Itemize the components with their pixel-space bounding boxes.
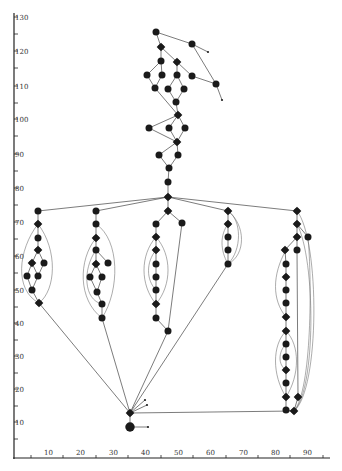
diamond-node-core — [153, 234, 159, 240]
loop-curve — [276, 250, 287, 317]
loop-curve — [156, 237, 168, 304]
circle-node-icon — [283, 300, 290, 307]
y-axis-ticks: 130120110100908070605040302010 — [14, 14, 28, 440]
arrow-dot-icon — [207, 51, 209, 53]
loop-curve — [222, 224, 228, 264]
graph-edge — [130, 264, 228, 413]
arrow-dot-icon — [147, 426, 149, 428]
diamond-node-core — [35, 247, 41, 253]
graph-canvas: 130120110100908070605040302010 102030405… — [0, 0, 342, 471]
circle-node-icon — [153, 261, 160, 268]
circle-node-icon — [153, 274, 160, 281]
y-tick-label: 130 — [15, 14, 28, 22]
graph-edge — [168, 197, 297, 211]
circle-node-icon — [99, 315, 106, 322]
circle-node-icon — [225, 261, 232, 268]
y-tick-label: 30 — [15, 353, 24, 361]
diamond-node-core — [294, 234, 300, 240]
diamond-node-core — [175, 112, 181, 118]
graph-edge — [168, 223, 182, 331]
diamond-node-core — [283, 274, 289, 280]
circle-node-icon — [165, 179, 172, 186]
diamond-node-core — [283, 367, 289, 373]
x-tick-label: 90 — [303, 449, 312, 457]
circle-node-icon — [213, 81, 220, 88]
circle-node-icon — [283, 354, 290, 361]
diamond-node-core — [282, 247, 288, 253]
y-tick-label: 20 — [15, 386, 24, 394]
circle-node-icon — [283, 261, 290, 268]
y-tick-label: 50 — [15, 287, 24, 295]
circle-node-icon — [153, 315, 160, 322]
diamond-node-core — [174, 139, 180, 145]
graph-edge — [102, 318, 130, 413]
diamond-node-core — [295, 394, 301, 400]
arrow-dot-icon — [144, 399, 146, 401]
circle-node-icon — [35, 273, 42, 280]
graph-edge — [39, 303, 130, 413]
y-tick-label: 40 — [15, 320, 24, 328]
circle-node-icon — [181, 86, 188, 93]
circle-node-icon — [105, 260, 112, 267]
diamond-node-core — [158, 44, 164, 50]
circle-node-icon — [153, 221, 160, 228]
circle-node-icon — [94, 289, 101, 296]
circle-node-icon — [305, 234, 312, 241]
x-tick-label: 30 — [109, 449, 118, 457]
circle-node-icon — [165, 328, 172, 335]
circle-node-icon — [179, 220, 186, 227]
y-tick-label: 70 — [15, 219, 24, 227]
x-tick-label: 80 — [271, 449, 280, 457]
circle-node-icon — [144, 72, 151, 79]
circle-node-icon — [125, 422, 134, 431]
circle-node-icon — [152, 85, 159, 92]
y-tick-label: 110 — [15, 83, 28, 91]
circle-node-icon — [294, 247, 301, 254]
circle-node-icon — [156, 152, 163, 159]
y-tick-label: 120 — [15, 48, 28, 56]
x-tick-label: 50 — [174, 449, 183, 457]
circle-node-icon — [99, 301, 106, 308]
circle-node-icon — [283, 380, 290, 387]
diamond-node-core — [225, 208, 231, 214]
circle-node-icon — [41, 260, 48, 267]
diamond-node-core — [291, 408, 297, 414]
diamond-node-core — [294, 221, 300, 227]
diamond-node-core — [93, 261, 99, 267]
graph-edge — [297, 250, 298, 397]
diamond-node-core — [127, 410, 133, 416]
circle-node-icon — [29, 287, 36, 294]
graph-edge — [130, 331, 168, 413]
circle-node-icon — [146, 125, 153, 132]
diamond-node-core — [283, 314, 289, 320]
circle-node-icon — [166, 125, 173, 132]
x-tick-label: 40 — [141, 449, 150, 457]
circle-node-icon — [93, 247, 100, 254]
diamond-node-core — [165, 208, 171, 214]
diamond-node-core — [35, 221, 41, 227]
diamond-node-core — [174, 59, 180, 65]
circle-node-icon — [159, 72, 166, 79]
arrow-dot-icon — [221, 99, 223, 101]
circle-node-icon — [175, 152, 182, 159]
graph-edge — [168, 197, 228, 211]
circle-node-icon — [189, 41, 196, 48]
graph-edge — [156, 32, 192, 44]
diamond-node-core — [29, 260, 35, 266]
circle-node-icon — [35, 235, 42, 242]
arrow-dot-icon — [146, 404, 148, 406]
circle-node-icon — [283, 341, 290, 348]
graph-edge — [38, 197, 168, 211]
diamond-node-core — [294, 208, 300, 214]
y-tick-label: 80 — [15, 185, 24, 193]
x-tick-label: 60 — [206, 449, 215, 457]
y-tick-label: 90 — [15, 151, 24, 159]
circle-node-icon — [24, 273, 31, 280]
loop-curve — [149, 250, 157, 290]
circle-node-icon — [93, 208, 100, 215]
circle-node-icon — [173, 99, 180, 106]
circle-node-icon — [283, 407, 290, 414]
circle-node-icon — [225, 234, 232, 241]
graph-nodes — [24, 29, 312, 432]
loop-curve — [294, 237, 310, 411]
